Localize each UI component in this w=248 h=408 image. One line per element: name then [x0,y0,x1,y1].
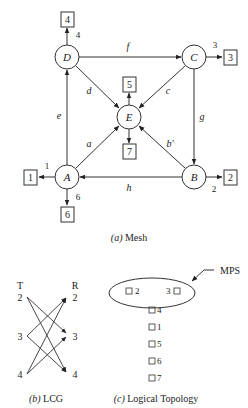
figure-canvas: D C E A B f e g h d c a b′ 4 3 5 7 1 6 2… [0,0,248,408]
lcg-link-4-to-3 [27,337,66,374]
port-box-label-2: 2 [228,172,233,183]
lcg-transmit-header: T [17,280,23,291]
lcg-receiver-4: 4 [73,369,78,380]
lcg-transmitter-2: 2 [18,292,23,303]
caption-topology-letter: (c) [114,393,126,405]
mps-pointer-arrow [192,270,214,281]
node-label-C: C [190,51,198,63]
port-link-label-3: 3 [213,40,218,50]
port-box-label-7: 7 [127,146,132,157]
edge-d [76,66,119,108]
caption-mesh: (a) Mesh [111,232,147,244]
edge-label-g: g [200,111,205,122]
port-link-label-4: 4 [76,30,81,40]
topology-node-box-7 [149,375,155,381]
lcg-link-2-to-3 [27,297,66,333]
port-link-label-2: 2 [212,184,217,194]
lcg-transmitter-3: 3 [18,331,23,342]
topology-node-box-2 [126,288,132,294]
lcg-receiver-3: 3 [73,331,78,342]
edge-label-e: e [57,110,62,121]
mps-label: MPS [220,265,240,276]
caption-mesh-letter: (a) [111,232,123,244]
edge-label-c: c [166,85,171,96]
lcg-link-4-to-2 [27,298,66,374]
caption-topology-text: Logical Topology [125,393,199,404]
edge-label-f: f [127,41,131,52]
edge-label-d: d [87,85,93,96]
topology-node-box-3 [174,288,180,294]
node-label-E: E [125,111,133,123]
caption-logical-topology: (c) Logical Topology [114,393,199,405]
edge-label-b-prime: b′ [166,138,174,149]
topology-node-box-5 [149,341,155,347]
lcg-receive-header: R [72,280,79,291]
port-box-label-1: 1 [28,172,33,183]
topology-node-box-6 [149,358,155,364]
logical-topology-diagram: MPS 2 3 4 1 5 6 7 (c) Logical Topology [109,265,240,405]
edge-b-prime [139,126,185,168]
port-box-label-4: 4 [65,14,70,25]
topology-node-label-6: 6 [157,356,162,366]
caption-lcg-letter: (b) [29,393,41,405]
node-label-B: B [191,171,198,183]
caption-mesh-text: Mesh [122,232,147,243]
topology-node-label-5: 5 [157,339,162,349]
topology-node-label-7: 7 [157,373,162,383]
mps-ellipse [109,278,195,308]
port-link-label-1: 1 [45,161,50,171]
edge-a [76,126,119,168]
topology-node-box-1 [149,324,155,330]
edge-label-a: a [87,138,92,149]
node-label-D: D [62,51,71,63]
caption-lcg-text: LCG [41,393,64,404]
lcg-link-2-to-4 [27,297,66,372]
topology-node-label-1: 1 [157,322,162,332]
port-box-label-6: 6 [65,209,70,220]
lcg-receiver-2: 2 [73,292,78,303]
node-label-A: A [63,171,71,183]
port-box-label-3: 3 [228,52,233,63]
topology-node-label-2: 2 [135,286,140,296]
port-box-label-5: 5 [127,79,132,90]
caption-lcg: (b) LCG [29,393,63,405]
lcg-transmitter-4: 4 [18,369,23,380]
topology-node-label-4: 4 [157,305,162,315]
lcg-link-3-to-4 [27,336,66,372]
edge-c [139,66,185,108]
topology-node-label-3: 3 [166,286,171,296]
lcg-link-3-to-2 [27,298,66,336]
edge-label-h: h [127,182,132,193]
port-link-label-6: 6 [76,192,81,202]
lcg-diagram: T R 2 3 4 2 3 4 (b) LCG [17,280,79,405]
